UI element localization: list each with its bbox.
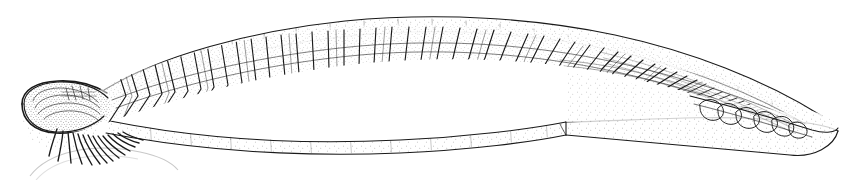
lancelet-drawing [0, 0, 853, 180]
lancelet-figure: Lancelet (amphioxus) lateral view line d… [0, 0, 853, 180]
